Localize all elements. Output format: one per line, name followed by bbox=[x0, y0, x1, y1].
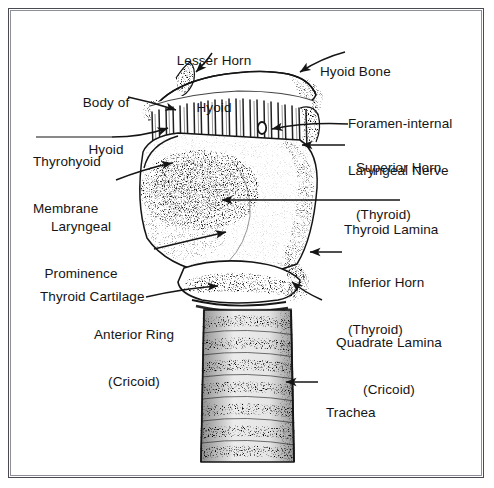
figure-frame-inner bbox=[10, 10, 482, 476]
anatomical-figure: Lesser Horn Hyoid Hyoid Bone Body of Hyo… bbox=[0, 0, 494, 488]
